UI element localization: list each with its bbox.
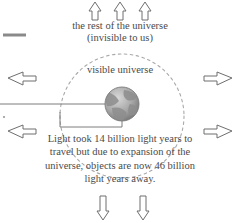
left-arrows (8, 72, 36, 138)
right-arrows (204, 72, 232, 138)
up-arrow-3 (139, 2, 151, 20)
up-arrow-2 (114, 2, 126, 20)
light-travel-line1: Light took 14 billion light years to (8, 132, 232, 145)
rest-of-universe-line2: (invisible to us) (0, 32, 240, 44)
left-dot (3, 116, 5, 118)
light-travel-caption: Light took 14 billion light years to tra… (8, 132, 232, 186)
universe-diagram: the rest of the universe (invisible to u… (0, 0, 240, 223)
down-arrow-1 (97, 196, 109, 220)
light-travel-line3: universe, objects are now 46 billion (8, 159, 232, 172)
earth-icon (105, 87, 139, 124)
rest-of-universe-label: the rest of the universe (invisible to u… (0, 20, 240, 44)
light-travel-line4: light years away. (8, 172, 232, 185)
light-travel-line2: travel but due to expansion of the (8, 145, 232, 158)
visible-universe-label: visible universe (0, 64, 240, 76)
up-arrow-1 (89, 2, 101, 20)
rest-of-universe-line1: the rest of the universe (72, 20, 168, 31)
up-arrows (89, 2, 151, 20)
down-arrows (97, 196, 149, 220)
down-arrow-2 (137, 196, 149, 220)
